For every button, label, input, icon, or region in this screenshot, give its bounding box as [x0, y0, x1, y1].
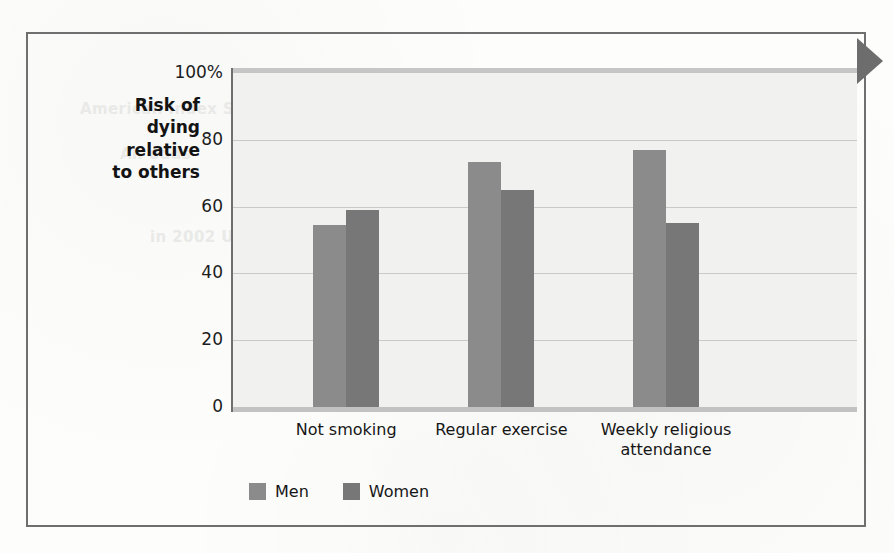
legend: MenWomen — [231, 482, 429, 501]
x-category-label-line: Weekly religious — [571, 420, 761, 440]
bar — [468, 162, 501, 407]
legend-swatch-icon — [343, 483, 360, 500]
y-tick-label: 20 — [201, 331, 223, 348]
x-category-label: Weekly religiousattendance — [571, 420, 761, 460]
figure-frame: Risk ofdyingrelativeto others 0204060801… — [26, 32, 866, 527]
x-category-label: Regular exercise — [406, 420, 596, 440]
scanned-page: SundayAmerican Index Stock Market Indice… — [0, 0, 894, 553]
bar — [501, 190, 534, 407]
bar — [346, 210, 379, 407]
bar — [633, 150, 666, 407]
legend-item-men[interactable]: Men — [249, 482, 309, 501]
legend-label: Men — [275, 482, 309, 501]
gridline — [231, 140, 857, 141]
y-tick-label: 40 — [201, 264, 223, 281]
legend-label: Women — [369, 482, 429, 501]
gridline — [231, 207, 857, 208]
y-tick-label: 60 — [201, 198, 223, 215]
bar — [666, 223, 699, 407]
y-tick-label: 0 — [212, 398, 223, 415]
plot-area — [231, 68, 857, 412]
legend-item-women[interactable]: Women — [343, 482, 429, 501]
y-axis-tick-labels: 020406080100% — [123, 34, 223, 454]
edge-triangle-marker — [857, 38, 883, 84]
legend-swatch-icon — [249, 483, 266, 500]
y-tick-label: 100% — [174, 64, 223, 81]
y-tick-label: 80 — [201, 131, 223, 148]
bar — [313, 225, 346, 407]
x-axis-line — [231, 407, 857, 412]
x-category-label-line: attendance — [571, 440, 761, 460]
x-category-label-line: Regular exercise — [406, 420, 596, 440]
y-axis-line — [231, 68, 233, 412]
plot-top-band — [231, 68, 857, 73]
bar-chart: Risk ofdyingrelativeto others 0204060801… — [28, 34, 868, 529]
